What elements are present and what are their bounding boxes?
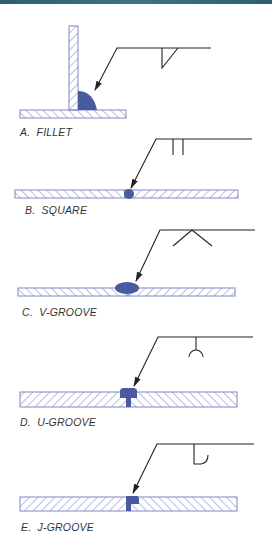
j-groove-symbol-icon (194, 444, 208, 464)
panel-u-groove (20, 337, 253, 407)
square-weld (124, 189, 134, 199)
panel-v-groove (18, 230, 255, 296)
panel-j-groove (20, 444, 254, 511)
label-fillet: A. FILLET (20, 126, 72, 138)
leader-arrow (136, 230, 255, 281)
weld-symbol-diagram (0, 0, 272, 542)
leader-arrow (95, 48, 211, 90)
fillet-weld (78, 91, 97, 110)
v-groove-weld (115, 282, 139, 294)
leader-arrow (131, 139, 252, 188)
label-v-groove: C. V-GROOVE (22, 306, 97, 318)
fillet-symbol-icon (162, 48, 178, 68)
v-groove-symbol-icon (173, 230, 212, 246)
label-square: B. SQUARE (25, 204, 87, 216)
leader-arrow (134, 337, 253, 386)
panel-fillet (20, 26, 211, 118)
label-j-groove: E. J-GROOVE (21, 521, 94, 533)
base-plate (20, 110, 126, 118)
panel-square (15, 139, 252, 199)
label-u-groove: D. U-GROOVE (20, 416, 96, 428)
vertical-plate (69, 26, 78, 110)
